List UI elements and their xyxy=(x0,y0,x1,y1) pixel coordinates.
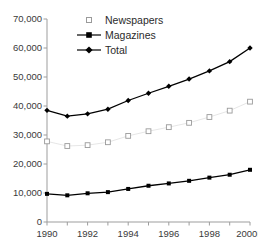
line-filled-diamond-marker-icon xyxy=(76,43,102,57)
x-axis-tick-label: 1998 xyxy=(189,229,229,239)
x-axis-tick-label: 2000E xyxy=(230,229,258,239)
y-axis-tick-label: 10,000 xyxy=(0,188,42,198)
legend-item-magazines: Magazines xyxy=(76,27,196,42)
y-axis-tick-label: 30,000 xyxy=(0,130,42,140)
chart-legend: Newspapers Magazines Total xyxy=(76,12,196,57)
x-axis-tick-label: 1994 xyxy=(108,229,148,239)
legend-label-newspapers: Newspapers xyxy=(102,14,163,26)
y-axis-tick-label: 20,000 xyxy=(0,159,42,169)
x-axis-tick-label: 1990 xyxy=(27,229,67,239)
legend-label-magazines: Magazines xyxy=(102,29,156,41)
line-chart: 010,00020,00030,00040,00050,00060,00070,… xyxy=(0,0,258,251)
y-axis-tick-label: 60,000 xyxy=(0,43,42,53)
legend-item-total: Total xyxy=(76,42,196,57)
y-axis-tick-label: 50,000 xyxy=(0,72,42,82)
line-filled-square-marker-icon xyxy=(76,28,102,42)
y-axis-tick-label: 40,000 xyxy=(0,101,42,111)
legend-item-newspapers: Newspapers xyxy=(76,12,196,27)
x-axis-tick-label: 1996 xyxy=(149,229,189,239)
y-axis-tick-label: 0 xyxy=(0,217,42,227)
y-axis-tick-label: 70,000 xyxy=(0,14,42,24)
x-axis-tick-label: 1992 xyxy=(68,229,108,239)
legend-label-total: Total xyxy=(102,44,127,56)
chart-series xyxy=(44,45,252,197)
open-square-marker-icon xyxy=(76,13,102,27)
